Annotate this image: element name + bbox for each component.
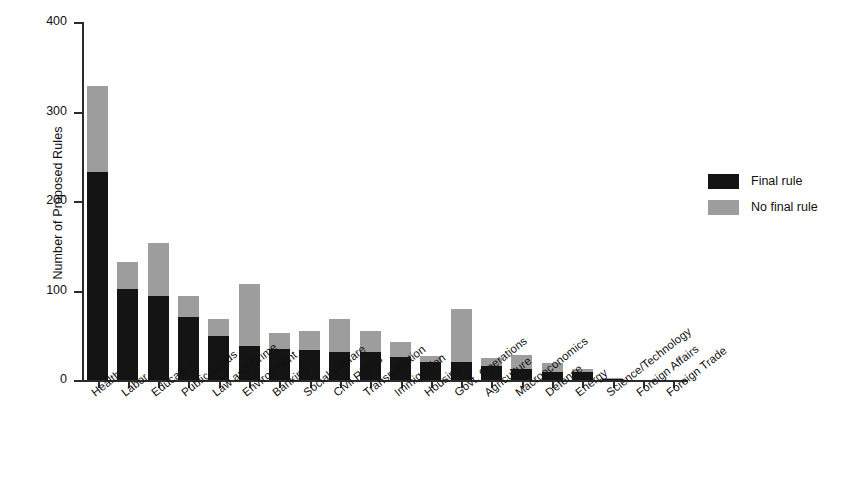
y-axis-tick-label: 400	[46, 14, 74, 28]
bar-segment-no-final-rule	[451, 309, 472, 362]
bar-segment-final-rule	[87, 172, 108, 380]
bar-segment-no-final-rule	[299, 331, 320, 351]
bar-segment-no-final-rule	[208, 319, 229, 336]
legend-item: Final rule	[708, 168, 818, 194]
legend-swatch	[708, 174, 739, 189]
bar-segment-no-final-rule	[178, 296, 199, 317]
bar-segment-no-final-rule	[117, 262, 138, 289]
bar-segment-no-final-rule	[239, 284, 260, 346]
y-axis-tick-label: 300	[46, 104, 74, 118]
bar-segment-no-final-rule	[87, 86, 108, 172]
bar-chart-figure: Number of Proposed Rules 0100200300400 H…	[0, 0, 841, 489]
bar-group	[148, 243, 169, 380]
bar-segment-final-rule	[117, 289, 138, 380]
bar-group	[87, 86, 108, 380]
y-axis-tick-label: 100	[46, 283, 74, 297]
bar-segment-final-rule	[148, 296, 169, 380]
y-axis-tick-label: 200	[46, 193, 74, 207]
bar-segment-no-final-rule	[329, 319, 350, 352]
legend-label: No final rule	[751, 200, 818, 214]
legend-item: No final rule	[708, 194, 818, 220]
legend: Final ruleNo final rule	[708, 168, 818, 220]
legend-swatch	[708, 200, 739, 215]
legend-label: Final rule	[751, 174, 802, 188]
bar-group	[117, 262, 138, 380]
plot-area	[82, 22, 688, 380]
y-axis-tick-label: 0	[60, 372, 74, 386]
bar-segment-no-final-rule	[148, 243, 169, 296]
